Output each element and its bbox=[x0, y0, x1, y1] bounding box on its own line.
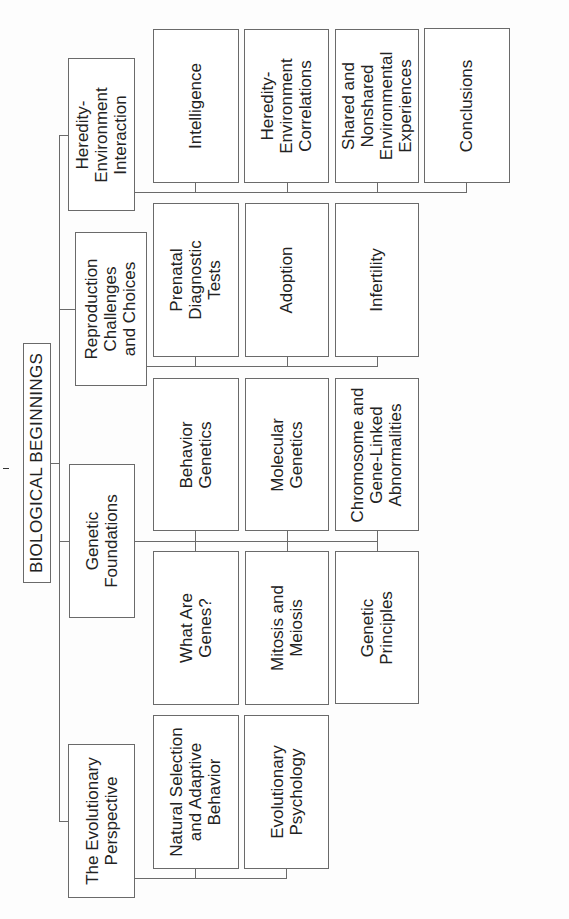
connector-genetic bbox=[134, 541, 378, 542]
subtopic-shared-nonshared-experiences: Shared and Nonshared Environmental Exper… bbox=[335, 29, 419, 183]
subtopic-evolutionary-psychology: Evolutionary Psychology bbox=[244, 715, 329, 869]
diagram-title: BIOLOGICAL BEGINNINGS bbox=[27, 353, 46, 573]
subtopic-heredity-environment-correlations: Heredity- Environment Correlations bbox=[244, 29, 329, 183]
subtopic-what-are-genes: What Are Genes? bbox=[153, 551, 239, 705]
stub bbox=[195, 868, 196, 879]
diagram-canvas: BIOLOGICAL BEGINNINGS Heredity- Environm… bbox=[0, 0, 569, 919]
topic-reproduction-challenges: Reproduction Challenges and Choices bbox=[75, 232, 147, 386]
connector-reproduction bbox=[146, 366, 378, 367]
subtopic-chromosome-gene-linked-abnormalities: Chromosome and Gene-Linked Abnormalities bbox=[335, 378, 419, 531]
subtopic-intelligence: Intelligence bbox=[153, 29, 239, 183]
subtopic-conclusions: Conclusions bbox=[424, 28, 510, 183]
stray-mark bbox=[3, 468, 9, 469]
stub bbox=[287, 182, 288, 193]
branch-reproduction bbox=[59, 309, 75, 310]
branch-genetic bbox=[59, 541, 69, 542]
subtopic-genetic-principles: Genetic Principles bbox=[335, 551, 419, 704]
spine-line bbox=[59, 135, 60, 822]
subtopic-prenatal-diagnostic-tests: Prenatal Diagnostic Tests bbox=[153, 203, 239, 357]
subtopic-mitosis-meiosis: Mitosis and Meiosis bbox=[245, 551, 329, 705]
stub bbox=[287, 530, 288, 552]
topic-genetic-foundations: Genetic Foundations bbox=[69, 464, 135, 618]
stub bbox=[195, 356, 196, 367]
stub bbox=[466, 182, 467, 193]
stub bbox=[377, 356, 378, 367]
stub bbox=[287, 356, 288, 367]
stub bbox=[195, 182, 196, 193]
stub bbox=[377, 530, 378, 552]
topic-heredity-environment-interaction: Heredity- Environment Interaction bbox=[68, 58, 135, 211]
subtopic-adoption: Adoption bbox=[245, 203, 329, 357]
subtopic-behavior-genetics: Behavior Genetics bbox=[153, 378, 239, 531]
title-box: BIOLOGICAL BEGINNINGS bbox=[23, 343, 51, 583]
subtopic-molecular-genetics: Molecular Genetics bbox=[245, 378, 329, 531]
stub bbox=[286, 868, 287, 879]
stub bbox=[377, 182, 378, 193]
topic-evolutionary-perspective: The Evolutionary Perspective bbox=[68, 744, 135, 898]
subtopic-infertility: Infertility bbox=[335, 203, 419, 357]
stub bbox=[195, 530, 196, 552]
subtopic-natural-selection: Natural Selection and Adaptive Behavior bbox=[153, 715, 239, 869]
connector-evolutionary bbox=[134, 878, 287, 879]
connector-heredity bbox=[134, 192, 467, 193]
